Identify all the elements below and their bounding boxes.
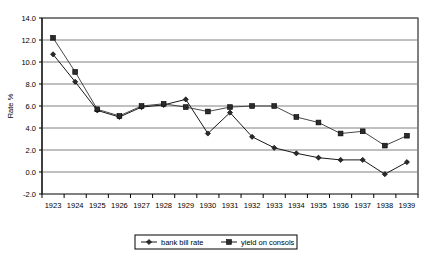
data-point-marker [382, 143, 387, 148]
data-point-marker [183, 105, 188, 110]
data-point-marker [250, 104, 255, 109]
x-tick-label: 1928 [155, 201, 172, 210]
x-tick-label: 1932 [244, 201, 261, 210]
y-tick-label: 0.0 [26, 168, 36, 177]
y-tick-label: 8.0 [26, 80, 36, 89]
y-tick-label: 2.0 [26, 146, 36, 155]
data-point-marker [316, 120, 321, 125]
x-tick-label: 1935 [310, 201, 327, 210]
x-tick-label: 1925 [89, 201, 106, 210]
x-tick-label: 1934 [288, 201, 305, 210]
data-point-marker [73, 70, 78, 75]
x-tick-label: 1937 [354, 201, 371, 210]
x-tick-label: 1938 [376, 201, 393, 210]
x-tick-label: 1926 [111, 201, 128, 210]
y-tick-label: -2.0 [23, 190, 36, 199]
x-tick-label: 1923 [45, 201, 62, 210]
data-point-marker [360, 129, 365, 134]
legend-marker-1 [227, 240, 232, 245]
y-tick-label: 4.0 [26, 124, 36, 133]
data-point-marker [161, 101, 166, 106]
chart-container: 14.012.010.08.06.04.02.00.0-2.0Rate %192… [0, 0, 432, 259]
data-point-marker [338, 131, 343, 136]
data-point-marker [405, 133, 410, 138]
y-tick-label: 6.0 [26, 102, 36, 111]
data-point-marker [117, 114, 122, 119]
x-tick-label: 1933 [266, 201, 283, 210]
data-point-marker [294, 115, 299, 120]
x-tick-label: 1930 [200, 201, 217, 210]
line-chart: 14.012.010.08.06.04.02.00.0-2.0Rate %192… [0, 0, 432, 259]
data-point-marker [139, 104, 144, 109]
y-tick-label: 14.0 [21, 14, 36, 23]
y-axis-title: Rate % [6, 93, 15, 118]
x-tick-label: 1939 [399, 201, 416, 210]
data-point-marker [205, 109, 210, 114]
legend-label-1: yield on consols [241, 238, 295, 247]
data-point-marker [272, 104, 277, 109]
x-tick-label: 1924 [67, 201, 84, 210]
y-tick-label: 12.0 [21, 36, 36, 45]
x-tick-label: 1929 [177, 201, 194, 210]
data-point-marker [95, 107, 100, 112]
x-tick-label: 1931 [222, 201, 239, 210]
x-tick-label: 1927 [133, 201, 150, 210]
data-point-marker [228, 105, 233, 110]
legend-label-0: bank bill rate [161, 238, 204, 247]
data-point-marker [51, 35, 56, 40]
y-tick-label: 10.0 [21, 58, 36, 67]
x-tick-label: 1936 [332, 201, 349, 210]
